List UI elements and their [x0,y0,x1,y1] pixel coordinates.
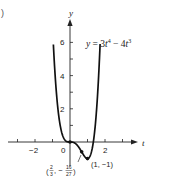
svg-text:(: ( [46,167,49,176]
svg-text:6: 6 [60,38,65,47]
svg-text:0: 0 [61,146,66,155]
x-axis-label: t [142,138,145,148]
y-axis-arrow-icon [67,19,72,26]
chart: −220246 y t y = 3t4 − 4t3 (1, −1) ( 2 3 … [0,0,178,183]
svg-text:): ) [73,167,76,176]
svg-text:16: 16 [66,164,72,170]
x-axis-arrow-icon [131,139,138,144]
svg-text:−2: −2 [29,146,39,155]
svg-text:2: 2 [50,164,53,170]
data-point [86,157,90,161]
svg-text:2: 2 [60,105,65,114]
equation-label: y = 3t4 − 4t3 [85,38,131,49]
svg-text:27: 27 [66,171,72,177]
svg-text:3: 3 [50,171,53,177]
svg-text:, −: , − [54,166,63,175]
point-label-min: (1, −1) [91,160,113,169]
y-axis-label: y [68,8,73,18]
svg-text:2: 2 [103,146,108,155]
point-label-inflection: ( 2 3 , − 16 27 ) [46,164,76,177]
data-point [68,140,72,144]
data-point [80,150,84,154]
leader-line [78,155,81,162]
svg-text:4: 4 [60,72,65,81]
curve-line [53,44,100,159]
